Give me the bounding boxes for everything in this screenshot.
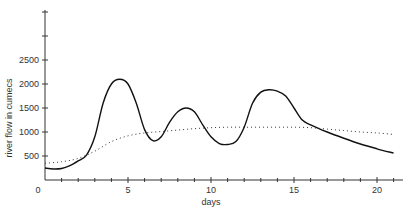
x-tick-label: 5 [125, 185, 130, 195]
y-tick-label: 500 [24, 151, 39, 161]
river-flow-chart: 500100015002000250005101520daysriver flo… [0, 0, 411, 208]
y-tick-label: 1000 [19, 127, 39, 137]
y-tick-label: 2000 [19, 79, 39, 89]
x-axis-title: days [201, 197, 221, 207]
y-tick-label: 2500 [19, 55, 39, 65]
x-tick-label: 10 [206, 185, 216, 195]
y-axis-title: river flow in cumecs [4, 78, 14, 158]
axes [42, 10, 403, 183]
x-tick-label: 15 [289, 185, 299, 195]
y-tick-label: 1500 [19, 103, 39, 113]
x-tick-label: 0 [35, 185, 40, 195]
observed-flow-line [45, 79, 394, 169]
x-tick-label: 20 [372, 185, 382, 195]
series-layer [45, 79, 394, 169]
mean-flow-line [45, 127, 394, 163]
